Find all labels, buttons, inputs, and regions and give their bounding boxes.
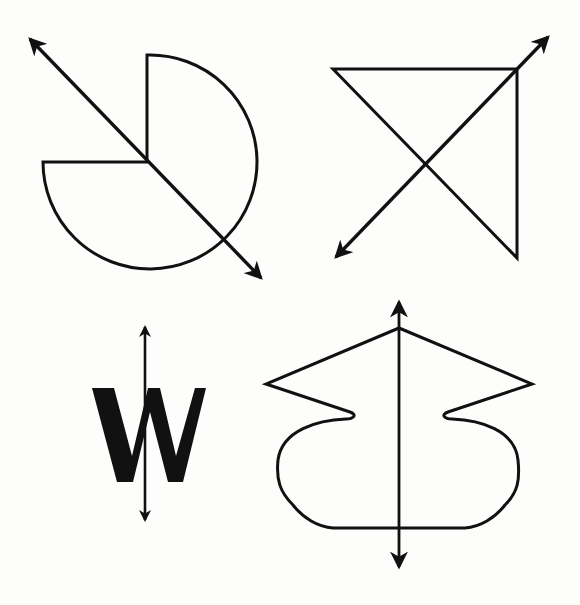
figure-right-triangle	[333, 37, 548, 258]
symmetry-diagram	[0, 0, 580, 605]
letter-w-glyph	[92, 388, 206, 482]
diagram-canvas: Figures with lines of symmetry Circle wi…	[0, 0, 580, 605]
figure-letter-w	[92, 327, 206, 520]
figure-three-quarter-circle	[30, 39, 261, 278]
figure-vase	[266, 302, 532, 567]
